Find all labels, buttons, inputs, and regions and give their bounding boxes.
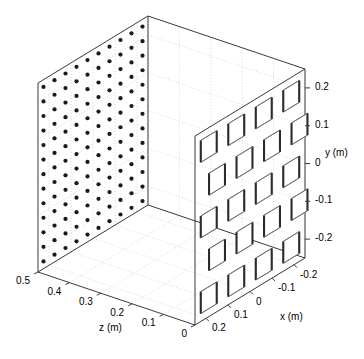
z-tick-label-3: 0.2 <box>110 308 124 318</box>
y-tick-label-0: 0.2 <box>315 82 329 92</box>
y-tick-label-2: 0 <box>315 158 321 168</box>
y-tick-label-4: -0.2 <box>315 233 332 243</box>
dot-marker-grid <box>41 25 144 264</box>
z-axis-label: z (m) <box>99 323 122 333</box>
y-tick-label-1: 0.1 <box>315 120 329 130</box>
x-tick-label-4: -0.2 <box>300 270 317 280</box>
plot-canvas <box>0 0 364 359</box>
x-tick-label-1: 0.1 <box>234 310 248 320</box>
x-tick-label-3: -0.1 <box>278 283 295 293</box>
z-tick-label-4: 0.1 <box>142 318 156 328</box>
figure-3d-plot: 0.5 0.4 0.3 0.2 0.1 0 z (m) 0.2 0.1 0 -0… <box>0 0 364 359</box>
x-tick-label-2: 0 <box>256 297 262 307</box>
x-tick-label-0: 0.2 <box>212 323 226 333</box>
z-tick-label-5: 0 <box>181 329 187 339</box>
axis-box-edges <box>38 16 305 325</box>
y-axis-label: y (m) <box>325 148 348 158</box>
grid-lines <box>38 16 305 325</box>
square-aperture-grid <box>201 80 308 313</box>
y-tick-label-3: -0.1 <box>315 195 332 205</box>
x-axis-label: x (m) <box>280 312 303 322</box>
z-tick-label-1: 0.4 <box>47 287 61 297</box>
z-tick-label-0: 0.5 <box>16 276 30 286</box>
z-tick-label-2: 0.3 <box>79 297 93 307</box>
